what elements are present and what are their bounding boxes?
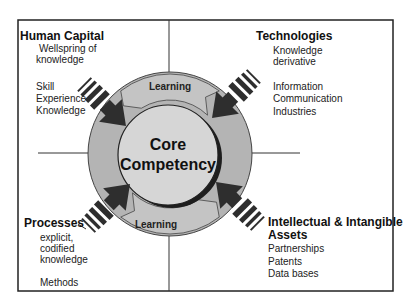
technologies-item: Industries (273, 106, 316, 117)
processes-item: Methods (40, 277, 78, 288)
processes-text: explicit, (40, 232, 73, 243)
technologies-text: derivative (273, 56, 316, 67)
technologies-text: Knowledge (273, 45, 322, 56)
human-capital-title: Human Capital (20, 30, 104, 43)
learning-label-bottom: Learning (135, 219, 177, 230)
human-capital-item: Skill (36, 81, 54, 92)
core-competency-circle (118, 105, 218, 205)
competency-label: Competency (120, 156, 216, 173)
processes-text: knowledge (40, 254, 88, 265)
processes-title: Processes (24, 217, 84, 230)
intellectual-assets-item: Patents (268, 256, 302, 267)
processes-text: codified (40, 243, 74, 254)
intellectual-assets-item: Data bases (268, 268, 319, 279)
human-capital-item: Experience (36, 93, 86, 104)
technologies-title: Technologies (256, 30, 332, 43)
technologies-item: Communication (273, 93, 342, 104)
learning-label-top: Learning (149, 81, 191, 92)
technologies-item: Information (273, 81, 323, 92)
intellectual-assets-item: Partnerships (268, 243, 324, 254)
intellectual-assets-title-line2: Assets (268, 229, 307, 242)
human-capital-text: knowledge (36, 54, 84, 65)
human-capital-text: Wellspring of (39, 43, 97, 54)
core-label: Core (150, 136, 187, 153)
human-capital-item: Knowledge (36, 105, 85, 116)
